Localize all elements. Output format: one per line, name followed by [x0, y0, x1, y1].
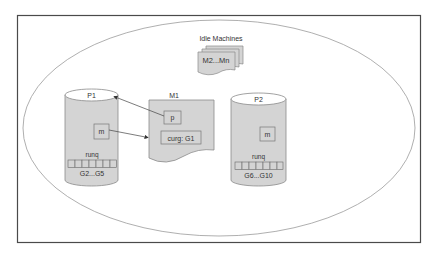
p2-m-label: m [265, 131, 271, 138]
p1-label: P1 [87, 92, 96, 99]
p2-label: P2 [254, 96, 263, 103]
p1-goroutines-label: G2...G5 [80, 170, 105, 177]
p2-runq-slots [235, 162, 283, 170]
p1-runq-slots [68, 160, 117, 168]
processor-p1: P1 m runq G2...G5 [65, 89, 118, 186]
p2-goroutines-label: G6...G10 [244, 172, 273, 179]
processor-p2: P2 m runq G6...G10 [231, 93, 286, 186]
m1-label: M1 [169, 92, 179, 99]
m1-curg-label: curg: G1 [168, 135, 195, 143]
m1-p-label: p [171, 114, 175, 122]
p1-runq-label: runq [85, 151, 98, 159]
idle-machines-stack-label: M2...Mn [202, 56, 229, 65]
p2-runq-label: runq [252, 153, 265, 161]
p1-m-label: m [99, 128, 105, 135]
idle-machines-label: Idle Machines [199, 35, 243, 42]
diagram-canvas: Idle Machines M2...Mn P1 m runq G2. [0, 0, 438, 253]
